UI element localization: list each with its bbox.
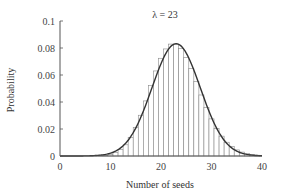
x-tick-label: 40 xyxy=(257,161,267,172)
y-ticks: 00.020.040.060.080.1 xyxy=(38,16,64,162)
histogram-bar xyxy=(164,49,169,156)
chart-title: λ = 23 xyxy=(152,9,178,20)
histogram-bar xyxy=(113,153,118,156)
x-ticks: 010203040 xyxy=(58,161,268,172)
histogram-bar xyxy=(184,57,189,156)
histogram-bar xyxy=(153,71,158,156)
x-axis-label: Number of seeds xyxy=(126,179,194,190)
histogram-bar xyxy=(169,44,174,156)
histogram-bar xyxy=(158,58,163,156)
y-tick-label: 0.08 xyxy=(38,43,56,54)
histogram-bar xyxy=(123,145,128,156)
y-axis-label: Probability xyxy=(5,68,16,112)
x-tick-label: 30 xyxy=(207,161,217,172)
histogram-bar xyxy=(174,44,179,156)
histogram-bar xyxy=(194,82,199,156)
y-tick-label: 0 xyxy=(50,151,55,162)
y-tick-label: 0.04 xyxy=(38,97,56,108)
y-tick-label: 0.02 xyxy=(38,124,56,135)
x-tick-label: 20 xyxy=(156,161,166,172)
histogram-bar xyxy=(199,95,204,156)
y-tick-label: 0.06 xyxy=(38,70,56,81)
histogram-bars xyxy=(98,44,260,156)
poisson-chart: λ = 23 00.020.040.060.080.1 010203040 Nu… xyxy=(0,0,286,195)
histogram-bar xyxy=(204,108,209,156)
histogram-bar xyxy=(189,69,194,156)
histogram-bar xyxy=(209,119,214,156)
x-tick-label: 10 xyxy=(106,161,116,172)
histogram-bar xyxy=(118,150,123,156)
x-tick-label: 0 xyxy=(58,161,63,172)
histogram-bar xyxy=(179,49,184,156)
y-tick-label: 0.1 xyxy=(43,16,56,27)
